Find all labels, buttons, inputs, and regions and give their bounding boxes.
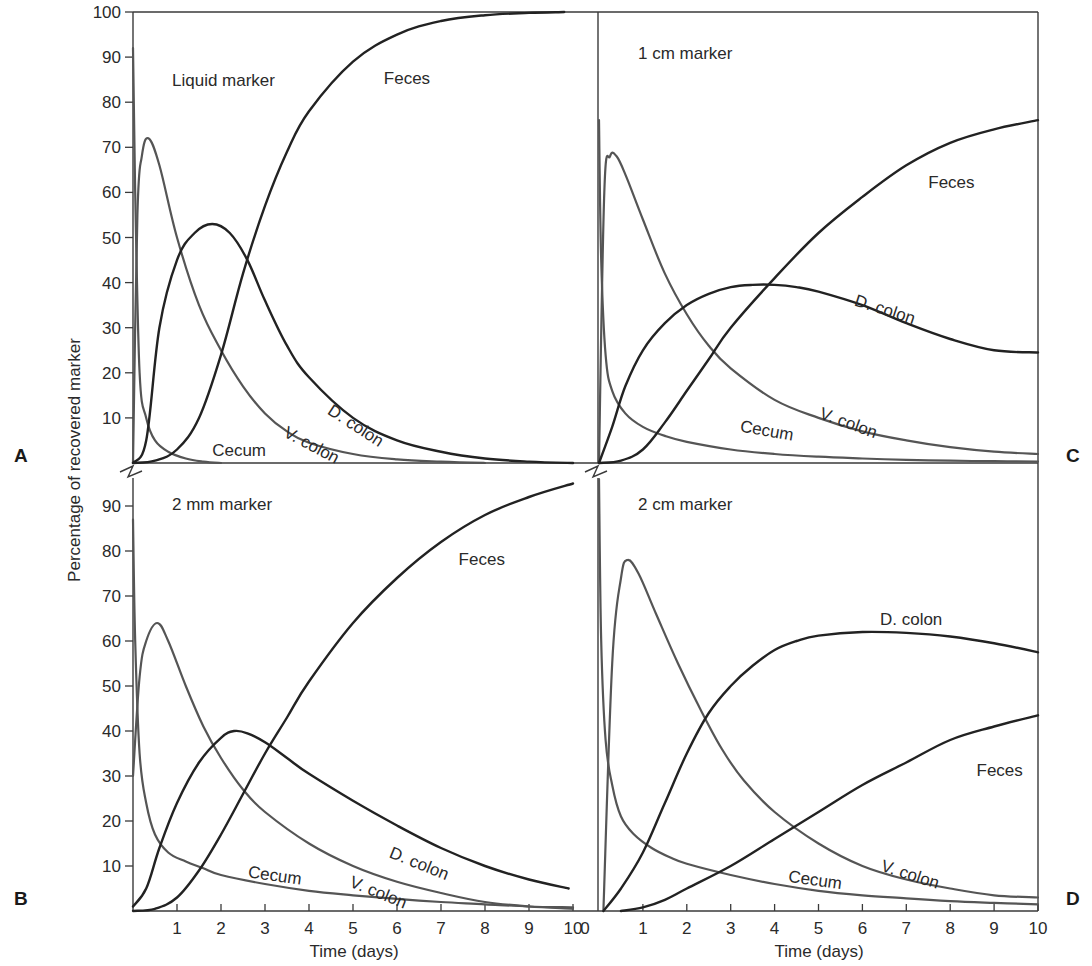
panel-title-2mm: 2 mm marker <box>172 495 272 514</box>
x-tick-label: 1 <box>172 919 181 938</box>
x-axis-title-right: Time (days) <box>774 942 863 961</box>
curve-label: D. colon <box>324 401 387 451</box>
panel-title-liquid: Liquid marker <box>172 71 275 90</box>
curve-label: V. colon <box>347 872 410 912</box>
curve-cecum <box>133 48 221 463</box>
curve-label: Cecum <box>739 417 795 445</box>
panel-title-1cm: 1 cm marker <box>638 44 733 63</box>
curve-label: V. colon <box>879 856 942 893</box>
y-tick-label: 100 <box>93 3 121 22</box>
panel-letter-a: A <box>14 445 28 466</box>
y-tick-label: 80 <box>102 542 121 561</box>
y-tick-label: 50 <box>102 229 121 248</box>
y-tick-label: 60 <box>102 632 121 651</box>
curve-label: Feces <box>977 761 1023 780</box>
panel-letter-c: C <box>1066 445 1080 466</box>
x-tick-label: 9 <box>989 919 998 938</box>
curve-v-colon <box>603 560 1038 911</box>
curve-label: Cecum <box>212 441 266 460</box>
curve-label: Feces <box>928 173 974 192</box>
curve-label: Cecum <box>247 862 303 888</box>
x-tick-label: 4 <box>304 919 313 938</box>
y-tick-label: 30 <box>102 767 121 786</box>
y-tick-label: 90 <box>102 497 121 516</box>
axis-ticks: 1020304050607080901001020304050607080901… <box>93 3 1048 938</box>
x-tick-label: 5 <box>348 919 357 938</box>
x-tick-label: 6 <box>392 919 401 938</box>
curve-label: D. colon <box>880 610 942 629</box>
x-tick-label: 1 <box>638 919 647 938</box>
figure-chart: 1020304050607080901001020304050607080901… <box>0 0 1092 966</box>
y-tick-label: 60 <box>102 183 121 202</box>
curve-cecum <box>133 520 573 908</box>
x-axis-title-left: Time (days) <box>309 942 398 961</box>
y-tick-label: 10 <box>102 409 121 428</box>
x-tick-label: 8 <box>480 919 489 938</box>
curve-feces <box>133 484 573 912</box>
x-tick-label: 0 <box>580 919 589 938</box>
curves <box>133 12 1038 911</box>
y-tick-label: 40 <box>102 722 121 741</box>
panel-title-2cm: 2 cm marker <box>638 495 733 514</box>
y-tick-label: 40 <box>102 274 121 293</box>
x-tick-label: 2 <box>216 919 225 938</box>
panel-letter-b: B <box>14 888 28 909</box>
x-tick-label: 7 <box>436 919 445 938</box>
axis-break-middle <box>585 466 607 477</box>
x-tick-label: 5 <box>814 919 823 938</box>
y-tick-label: 50 <box>102 677 121 696</box>
y-tick-label: 20 <box>102 812 121 831</box>
x-tick-label: 7 <box>902 919 911 938</box>
y-tick-label: 80 <box>102 93 121 112</box>
curve-d-colon <box>603 632 1038 911</box>
x-tick-label: 4 <box>770 919 779 938</box>
y-axis-title: Percentage of recovered marker <box>65 338 84 582</box>
panel-letter-d: D <box>1066 888 1080 909</box>
curve-v-colon <box>133 138 485 463</box>
curve-cecum <box>599 479 1038 904</box>
x-tick-label: 2 <box>682 919 691 938</box>
y-tick-label: 30 <box>102 319 121 338</box>
y-tick-label: 70 <box>102 138 121 157</box>
x-tick-label: 6 <box>858 919 867 938</box>
curve-label: Feces <box>459 550 505 569</box>
x-tick-label: 3 <box>260 919 269 938</box>
curve-label: Cecum <box>787 867 843 893</box>
y-tick-label: 70 <box>102 587 121 606</box>
curve-label: Feces <box>384 69 430 88</box>
labels: FecesD. colonV. colonCecumFecesD. colonV… <box>212 69 1023 912</box>
panel-frames <box>120 12 1038 911</box>
x-tick-label: 8 <box>945 919 954 938</box>
y-tick-label: 90 <box>102 48 121 67</box>
axis-break-left <box>120 466 142 477</box>
x-tick-label: 10 <box>1029 919 1048 938</box>
curve-label: V. colon <box>817 404 880 442</box>
x-tick-label: 9 <box>524 919 533 938</box>
x-tick-label: 3 <box>726 919 735 938</box>
curve-label: V. colon <box>281 423 343 468</box>
y-tick-label: 10 <box>102 857 121 876</box>
curve-label: D. colon <box>852 291 917 328</box>
y-tick-label: 20 <box>102 364 121 383</box>
